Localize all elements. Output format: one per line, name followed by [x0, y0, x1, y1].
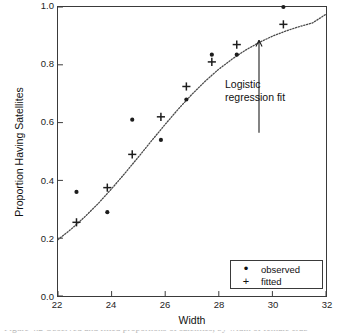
- observed-point: [281, 5, 285, 9]
- fitted-point: [279, 20, 287, 28]
- observed-point: [184, 97, 188, 101]
- x-tick-label: 26: [160, 300, 171, 310]
- fitted-point: [208, 58, 216, 66]
- plus-marker-icon: +: [231, 276, 261, 286]
- observed-points-group: [74, 5, 285, 214]
- y-tick-label: 0.4: [41, 176, 54, 186]
- logistic-fit-curve: [58, 14, 326, 239]
- logistic-fit-annotation-text: Logistic regression fit: [225, 78, 311, 103]
- x-tick-label: 28: [214, 300, 225, 310]
- figure-caption-text: Figure 4.2 Observed and fitted proportio…: [4, 330, 339, 333]
- plot-frame: [57, 6, 327, 297]
- x-tick-label: 24: [106, 300, 117, 310]
- y-tick-label: 0.6: [41, 118, 54, 128]
- observed-point: [105, 210, 109, 214]
- annotation-line-1: Logistic: [225, 78, 311, 91]
- fitted-point: [233, 40, 241, 48]
- observed-point: [130, 118, 134, 122]
- observed-point: [210, 53, 214, 57]
- legend-label-observed: observed: [261, 264, 322, 275]
- x-tick-label: 22: [52, 300, 63, 310]
- y-tick-label: 0.2: [41, 234, 54, 244]
- observed-point: [159, 138, 163, 142]
- observed-point: [74, 190, 78, 194]
- y-tick-label: 1.0: [41, 1, 54, 11]
- figure-container: 0.00.20.40.60.81.0 222426283032 Width Pr…: [0, 0, 339, 336]
- annotation-line-2: regression fit: [225, 91, 311, 104]
- y-axis-title: Proportion Having Satellites: [13, 47, 25, 257]
- observed-point: [235, 53, 239, 57]
- legend-label-fitted: fitted: [261, 276, 322, 287]
- legend-item-observed: • observed: [231, 263, 322, 275]
- dot-marker-icon: •: [231, 265, 261, 273]
- legend-item-fitted: + fitted: [231, 275, 322, 287]
- plot-area: [58, 7, 326, 296]
- fitted-point: [128, 150, 136, 158]
- legend: • observed + fitted: [230, 260, 323, 289]
- fitted-point: [182, 82, 190, 90]
- logistic-fit-path: [58, 14, 326, 239]
- y-tick-label: 0.8: [41, 59, 54, 69]
- plot-svg: [58, 7, 326, 296]
- x-tick-label: 30: [268, 300, 279, 310]
- fitted-point: [72, 218, 80, 226]
- x-axis-title: Width: [57, 314, 327, 326]
- figure-caption-clipped: Figure 4.2 Observed and fitted proportio…: [0, 330, 339, 336]
- x-tick-label: 32: [322, 300, 333, 310]
- fitted-point: [157, 113, 165, 121]
